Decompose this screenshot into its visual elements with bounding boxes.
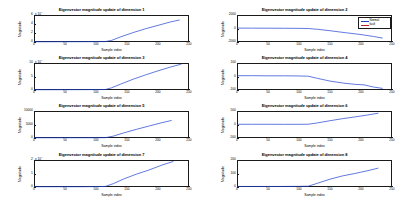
data-curves <box>0 149 203 197</box>
data-curves <box>203 149 405 197</box>
subplot-dimension-4: Eigenvector magnitude update of dimensio… <box>203 52 405 100</box>
legend-label: fault <box>370 23 376 26</box>
data-curves <box>203 100 405 148</box>
subplot-dimension-8: Eigenvector magnitude update of dimensio… <box>203 149 405 197</box>
data-curves <box>0 4 203 52</box>
series-line-normal <box>237 113 378 124</box>
legend-line-swatch <box>361 21 369 22</box>
series-line-normal <box>34 64 182 90</box>
series-line-normal <box>237 28 383 38</box>
subplot-dimension-5: Eigenvector magnitude update of dimensio… <box>0 100 203 148</box>
subplot-dimension-3: Eigenvector magnitude update of dimensio… <box>0 52 203 100</box>
series-line-normal <box>34 161 174 186</box>
subplot-dimension-1: Eigenvector magnitude update of dimensio… <box>0 4 203 52</box>
series-line-normal <box>34 120 172 137</box>
legend-item: fault <box>361 23 389 27</box>
data-curves <box>0 52 203 100</box>
subplot-dimension-2: Eigenvector magnitude update of dimensio… <box>203 4 405 52</box>
matlab-figure: Eigenvector magnitude update of dimensio… <box>0 0 405 202</box>
data-curves <box>203 52 405 100</box>
series-line-normal <box>34 20 180 42</box>
subplot-dimension-6: Eigenvector magnitude update of dimensio… <box>203 100 405 148</box>
legend-line-swatch <box>361 25 369 26</box>
subplot-dimension-7: Eigenvector magnitude update of dimensio… <box>0 149 203 197</box>
legend[interactable]: Normalfault <box>358 17 391 29</box>
series-line-normal <box>237 168 378 186</box>
data-curves <box>0 100 203 148</box>
series-line-normal <box>237 76 383 89</box>
